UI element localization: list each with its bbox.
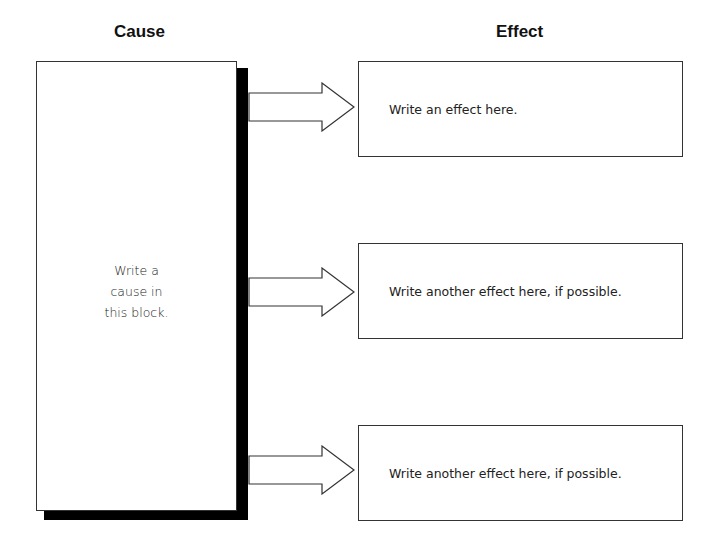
effect-box-2[interactable]: Write another effect here, if possible. — [358, 243, 683, 339]
effect-heading: Effect — [496, 22, 543, 42]
effect-text: Write another effect here, if possible. — [359, 284, 622, 299]
cause-box[interactable]: Write a cause in this block. — [36, 61, 237, 511]
effect-text: Write another effect here, if possible. — [359, 466, 622, 481]
cause-text: Write a cause in this block. — [87, 260, 187, 323]
arrow-right-icon — [247, 267, 359, 317]
effect-box-3[interactable]: Write another effect here, if possible. — [358, 425, 683, 521]
arrow-right-icon — [247, 445, 359, 495]
effect-box-1[interactable]: Write an effect here. — [358, 61, 683, 157]
cause-heading: Cause — [114, 22, 165, 42]
arrow-right-icon — [247, 82, 359, 132]
effect-text: Write an effect here. — [359, 102, 517, 117]
